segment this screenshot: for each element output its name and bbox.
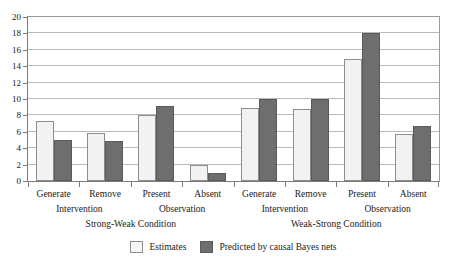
bar-group	[182, 17, 233, 181]
bar-group	[79, 17, 130, 181]
bar-estimates	[395, 134, 413, 181]
legend-label-estimates: Estimates	[149, 242, 186, 252]
condition-label: Weak-Strong Condition	[234, 218, 440, 230]
bar-estimates	[138, 115, 156, 181]
legend-item-estimates: Estimates	[130, 241, 186, 253]
category-label: Absent	[388, 188, 439, 200]
x-axis-tick-mark	[438, 182, 439, 187]
category-label: Present	[131, 188, 182, 200]
bar-estimates	[241, 108, 259, 181]
x-axis-ticks	[28, 182, 439, 187]
x-axis-tick-mark	[79, 182, 80, 187]
chart-legend: Estimates Predicted by causal Bayes nets	[0, 238, 467, 256]
legend-item-predicted: Predicted by causal Bayes nets	[200, 241, 336, 253]
category-label: Generate	[28, 188, 79, 200]
bar-estimates	[36, 121, 54, 181]
chart-figure: 20181614121086420 GenerateRemovePresentA…	[0, 0, 467, 263]
x-axis-tick-mark	[182, 182, 183, 187]
category-label: Absent	[182, 188, 233, 200]
condition-label: Strong-Weak Condition	[28, 218, 234, 230]
bar-predicted	[259, 99, 277, 181]
x-axis-tick-mark	[336, 182, 337, 187]
bar-predicted	[362, 33, 380, 181]
y-axis: 20181614121086420	[0, 0, 27, 182]
x-axis-tick-mark	[131, 182, 132, 187]
category-group-label: Intervention	[234, 203, 337, 215]
bar-estimates	[87, 133, 105, 181]
category-label: Generate	[234, 188, 285, 200]
x-axis-tick-mark	[285, 182, 286, 187]
bar-predicted	[156, 106, 174, 181]
x-axis-tick-mark	[28, 182, 29, 187]
bar-group	[234, 17, 285, 181]
category-label: Remove	[79, 188, 130, 200]
category-group-labels: InterventionObservationInterventionObser…	[28, 203, 439, 217]
dark-swatch-icon	[200, 241, 213, 253]
x-axis-tick-mark	[388, 182, 389, 187]
light-swatch-icon	[130, 241, 143, 253]
bar-group	[285, 17, 336, 181]
bar-group	[388, 17, 439, 181]
bar-group	[28, 17, 79, 181]
bar-predicted	[413, 126, 431, 181]
bar-predicted	[311, 99, 329, 181]
bar-groups	[28, 17, 439, 181]
bar-estimates	[293, 109, 311, 181]
category-label: Present	[336, 188, 387, 200]
category-labels: GenerateRemovePresentAbsentGenerateRemov…	[28, 188, 439, 202]
bar-estimates	[190, 165, 208, 181]
category-group-label: Observation	[131, 203, 234, 215]
bar-predicted	[54, 140, 72, 181]
category-group-label: Observation	[336, 203, 439, 215]
bar-group	[336, 17, 387, 181]
x-axis-tick-mark	[234, 182, 235, 187]
bar-predicted	[105, 141, 123, 181]
category-label: Remove	[285, 188, 336, 200]
legend-label-predicted: Predicted by causal Bayes nets	[219, 242, 336, 252]
bar-group	[131, 17, 182, 181]
bar-predicted	[208, 173, 226, 181]
category-group-label: Intervention	[28, 203, 131, 215]
condition-labels: Strong-Weak ConditionWeak-Strong Conditi…	[28, 218, 439, 232]
bar-estimates	[344, 59, 362, 181]
